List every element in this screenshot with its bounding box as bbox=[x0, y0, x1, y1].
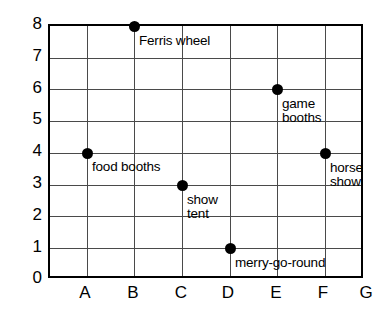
y-tick-2: 2 bbox=[2, 206, 42, 223]
data-point-game-booths[interactable] bbox=[272, 84, 283, 95]
label-food-booths: food booths bbox=[92, 160, 160, 174]
data-point-merry-go-round[interactable] bbox=[225, 243, 236, 254]
gridline-vertical-e bbox=[277, 26, 278, 276]
gridline-horizontal-6 bbox=[50, 89, 361, 90]
y-tick-7: 7 bbox=[2, 47, 42, 64]
label-horse-show-line2: show bbox=[330, 175, 361, 189]
label-ferris-wheel: Ferris wheel bbox=[139, 34, 210, 48]
y-tick-5: 5 bbox=[2, 110, 42, 127]
y-tick-6: 6 bbox=[2, 79, 42, 96]
gridline-vertical-d bbox=[230, 26, 231, 276]
data-point-food-booths[interactable] bbox=[82, 148, 93, 159]
label-merry-go-round: merry-go-round bbox=[235, 256, 325, 270]
label-show-tent-line2: tent bbox=[187, 207, 209, 221]
gridline-horizontal-7 bbox=[50, 58, 361, 59]
x-tick-e: E bbox=[261, 284, 291, 301]
gridline-horizontal-1 bbox=[50, 248, 361, 249]
label-show-tent-line1: show bbox=[187, 193, 218, 207]
x-tick-c: C bbox=[166, 284, 196, 301]
x-axis: A B C D E F G bbox=[0, 284, 389, 308]
label-game-booths-line2: booths bbox=[282, 111, 321, 125]
label-horse-show-line1: horse bbox=[330, 161, 363, 175]
y-tick-8: 8 bbox=[2, 15, 42, 32]
gridline-vertical-b bbox=[134, 26, 135, 276]
label-game-booths-line1: game bbox=[282, 97, 315, 111]
y-tick-3: 3 bbox=[2, 174, 42, 191]
data-point-show-tent[interactable] bbox=[177, 180, 188, 191]
x-tick-f: F bbox=[308, 284, 338, 301]
y-tick-1: 1 bbox=[2, 238, 42, 255]
scatter-plot-figure: 8 7 6 5 4 3 2 1 0 Ferris wheel bbox=[0, 0, 389, 314]
gridline-horizontal-3 bbox=[50, 185, 361, 186]
gridline-horizontal-4 bbox=[50, 153, 361, 154]
x-tick-g: G bbox=[351, 284, 381, 301]
x-tick-a: A bbox=[70, 284, 100, 301]
gridline-vertical-c bbox=[182, 26, 183, 276]
y-tick-4: 4 bbox=[2, 142, 42, 159]
x-tick-b: B bbox=[118, 284, 148, 301]
x-tick-d: D bbox=[213, 284, 243, 301]
plot-area: Ferris wheel food booths show tent merry… bbox=[48, 24, 363, 278]
y-axis: 8 7 6 5 4 3 2 1 0 bbox=[0, 0, 42, 314]
data-point-horse-show[interactable] bbox=[320, 148, 331, 159]
data-point-ferris-wheel[interactable] bbox=[129, 21, 140, 32]
